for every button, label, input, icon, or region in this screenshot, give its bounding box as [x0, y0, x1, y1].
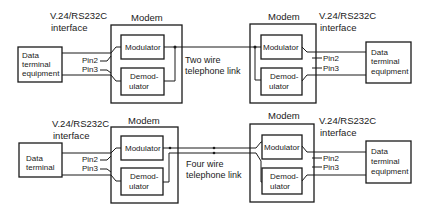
right-interface-label: V.24/RS232C: [319, 10, 376, 21]
four-wire-diagram: V.24/RS232C interface V.24/RS232C interf…: [19, 110, 411, 203]
left-demod-label-1: Demod-: [130, 172, 159, 181]
right-interface-label-2: interface: [320, 127, 356, 138]
modem-link-diagrams: V.24/RS232C interface V.24/RS232C interf…: [0, 0, 428, 212]
left-interface-label: V.24/RS232C: [52, 118, 109, 129]
right-demod-label-2: ulator: [270, 182, 290, 191]
left-tx-wire: [62, 47, 121, 53]
left-pin3-leader: [100, 169, 111, 172]
left-interface-label: V.24/RS232C: [50, 10, 107, 21]
right-interface-label-2: interface: [320, 22, 356, 33]
right-dte-label-1: Data: [371, 147, 388, 156]
two-wire-diagram: V.24/RS232C interface V.24/RS232C interf…: [18, 10, 411, 103]
right-rx-wire: [302, 75, 366, 81]
mid-tx-dot: [213, 147, 216, 150]
right-modulator-label: Modulator: [264, 143, 300, 152]
right-dte-label-1: Data: [371, 48, 388, 57]
left-modem-title: Modem: [128, 115, 160, 126]
left-rx-wire: [62, 175, 121, 181]
left-tx-wire: [62, 148, 121, 153]
left-pin3-label: Pin3: [82, 65, 99, 74]
left-pin2-label: Pin2: [82, 155, 99, 164]
right-pin3-label: Pin3: [323, 64, 340, 73]
left-pin2-leader: [100, 56, 111, 61]
right-modem-title: Modem: [268, 11, 300, 22]
right-pin3-label: Pin3: [323, 163, 340, 172]
right-rx-wire: [302, 175, 366, 181]
left-rx-wire: [62, 75, 121, 81]
right-dte-label-2: terminal: [371, 57, 400, 66]
right-demod-label-2: ulator: [269, 82, 289, 91]
two-wire-link-label-2: telephone link: [185, 66, 241, 76]
left-demod-label-2: ulator: [129, 182, 149, 191]
left-tx-dot: [169, 147, 172, 150]
left-interface-label-2: interface: [51, 22, 87, 33]
left-demod-label-2: ulator: [129, 82, 149, 91]
right-dte-label-3: equipment: [371, 167, 409, 176]
left-modulator-label: Modulator: [125, 43, 161, 52]
left-pin3-label: Pin3: [82, 164, 99, 173]
left-interface-label-2: interface: [53, 130, 89, 141]
left-demod-in: [164, 47, 175, 81]
left-dte-label-1: Data: [22, 51, 39, 60]
right-demod-label-1: Demod-: [270, 172, 299, 181]
two-wire-link-label-1: Two wire: [185, 55, 221, 65]
right-demod-in: [255, 47, 261, 80]
right-dte-label-3: equipment: [371, 67, 409, 76]
left-pin2-leader: [100, 156, 111, 160]
right-interface-label: V.24/RS232C: [319, 115, 376, 126]
right-modulator-label: Modulator: [263, 43, 299, 52]
mid-rx-dot: [213, 152, 216, 155]
four-wire-link-label-1: Four wire: [186, 159, 224, 169]
right-tx-wire: [302, 47, 366, 52]
left-dte-label-2: terminal: [26, 163, 55, 172]
right-pin2-label: Pin2: [323, 54, 340, 63]
four-wire-link-label-2: telephone link: [186, 170, 242, 180]
right-demod-label-1: Demod-: [270, 72, 299, 81]
left-modem-title: Modem: [131, 12, 163, 23]
right-pin2-label: Pin2: [323, 154, 340, 163]
left-dte-label-3: equipment: [22, 69, 60, 78]
left-pin3-leader: [100, 70, 111, 73]
left-modem-box: [111, 25, 182, 103]
right-modem-title: Modem: [268, 110, 300, 121]
left-dte-label-1: Data: [26, 154, 43, 163]
left-dte-label-2: terminal: [22, 60, 51, 69]
left-demod-label-1: Demod-: [130, 72, 159, 81]
left-modulator-label: Modulator: [125, 144, 161, 153]
right-dte-label-2: terminal: [371, 157, 400, 166]
left-pin2-label: Pin2: [82, 56, 99, 65]
right-modem-box: [250, 24, 316, 103]
right-tx-wire: [302, 146, 366, 152]
